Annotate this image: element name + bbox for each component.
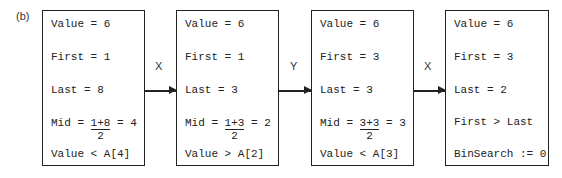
mid-numerator: 1+8	[91, 117, 111, 130]
value-line: Value = 6	[185, 18, 244, 30]
first-line: First = 3	[454, 51, 513, 63]
state-box-1: Value = 6 First = 1 Last = 8 Mid = 1+82 …	[42, 10, 145, 166]
last-line: Last = 2	[454, 84, 507, 96]
compare-line: Value < A[3]	[320, 148, 399, 160]
mid-numerator: 3+3	[360, 117, 380, 130]
compare-line: Value < A[4]	[51, 148, 130, 160]
mid-denominator: 2	[91, 130, 111, 142]
mid-line: Mid = 1+32 = 2	[185, 111, 271, 136]
last-line: Last = 8	[51, 84, 104, 96]
mid-line: Mid = 1+82 = 4	[51, 111, 137, 136]
state-box-2: Value = 6 First = 1 Last = 3 Mid = 1+32 …	[176, 10, 279, 166]
arrow-label-3: X	[424, 60, 431, 72]
mid-fraction: 1+32	[225, 117, 245, 142]
mid-suffix: = 2	[244, 117, 270, 129]
mid-line: Mid = 3+32 = 3	[320, 111, 406, 136]
mid-fraction: 1+82	[91, 117, 111, 142]
arrow-1	[145, 90, 176, 92]
condition-line: First > Last	[454, 116, 533, 128]
compare-line: Value > A[2]	[185, 148, 264, 160]
mid-prefix: Mid =	[185, 117, 225, 129]
arrow-label-2: Y	[290, 60, 297, 72]
last-line: Last = 3	[320, 84, 373, 96]
first-line: First = 1	[51, 51, 110, 63]
arrow-3	[414, 90, 445, 92]
mid-prefix: Mid =	[51, 117, 91, 129]
figure-label: (b)	[16, 10, 29, 22]
state-box-4: Value = 6 First = 3 Last = 2 First > Las…	[445, 10, 549, 166]
value-line: Value = 6	[51, 18, 110, 30]
first-line: First = 3	[320, 51, 379, 63]
arrow-2	[279, 90, 311, 92]
mid-suffix: = 4	[110, 117, 136, 129]
value-line: Value = 6	[320, 18, 379, 30]
state-box-3: Value = 6 First = 3 Last = 3 Mid = 3+32 …	[311, 10, 414, 166]
arrow-label-1: X	[155, 60, 162, 72]
value-line: Value = 6	[454, 18, 513, 30]
mid-suffix: = 3	[379, 117, 405, 129]
mid-numerator: 1+3	[225, 117, 245, 130]
mid-fraction: 3+32	[360, 117, 380, 142]
result-line: BinSearch := 0	[454, 148, 546, 160]
last-line: Last = 3	[185, 84, 238, 96]
mid-prefix: Mid =	[320, 117, 360, 129]
mid-denominator: 2	[360, 130, 380, 142]
mid-denominator: 2	[225, 130, 245, 142]
first-line: First = 1	[185, 51, 244, 63]
